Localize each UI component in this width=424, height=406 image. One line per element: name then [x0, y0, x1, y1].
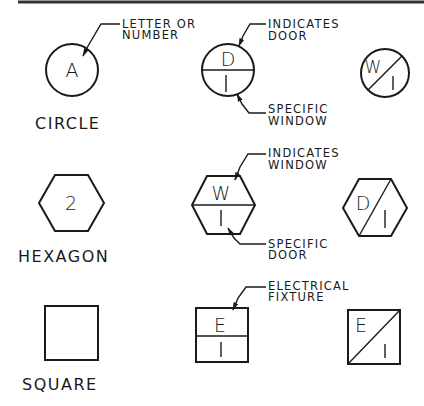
square-basic	[45, 306, 98, 360]
circle-diag-top-symbol: W	[365, 57, 382, 77]
label-window-2: WINDOW	[268, 158, 328, 172]
caption-hexagon: HEXAGON	[18, 247, 109, 266]
square-split-top-symbol: E	[214, 314, 226, 336]
label-door-2: DOOR	[268, 248, 308, 262]
circle-basic: A	[46, 44, 98, 96]
hexagon-basic: 2	[39, 175, 104, 231]
symbol-reference-diagram: A LETTER OR NUMBER CIRCLE D INDICATES DO…	[0, 0, 424, 406]
hexagon-basic-symbol: 2	[65, 192, 77, 214]
hexagon-split-top-symbol: W	[212, 182, 231, 204]
caption-circle: CIRCLE	[35, 114, 100, 133]
leader-indicates-door: INDICATES DOOR	[239, 17, 340, 46]
circle-split-diagonal: W	[361, 49, 409, 97]
circle-split-horizontal: D	[202, 44, 254, 96]
hexagon-diag-top-symbol: D	[356, 192, 371, 214]
circle-basic-symbol: A	[66, 59, 79, 81]
square-diag-top-symbol: E	[355, 314, 367, 336]
hexagon-split-diagonal: D	[343, 179, 407, 236]
caption-square: SQUARE	[22, 375, 98, 394]
label-window: WINDOW	[268, 114, 328, 128]
leader-letter-or-number: LETTER OR NUMBER	[83, 17, 196, 56]
square-split-diagonal: E	[348, 310, 400, 364]
label-door: DOOR	[268, 29, 308, 43]
leader-specific-window: SPECIFIC WINDOW	[237, 94, 329, 128]
leader-electrical-fixture: ELECTRICAL FIXTURE	[233, 279, 350, 310]
leader-specific-door: SPECIFIC DOOR	[228, 228, 329, 262]
leader-indicates-window: INDICATES WINDOW	[235, 146, 340, 180]
hexagon-split-horizontal: W	[192, 176, 255, 234]
square-split-horizontal: E	[196, 308, 248, 362]
circle-split-top-symbol: D	[221, 48, 236, 70]
label-fixture: FIXTURE	[268, 290, 325, 304]
leader-label-number: NUMBER	[122, 28, 179, 42]
